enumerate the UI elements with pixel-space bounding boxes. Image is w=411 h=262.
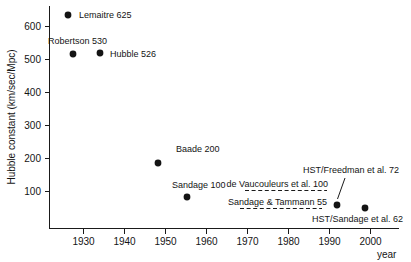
- x-tick-label-1990: 1990: [318, 236, 341, 247]
- y-tick-label-200: 200: [24, 153, 41, 164]
- x-axis: [50, 229, 400, 234]
- label-lemaitre: Lemaitre 625: [79, 10, 132, 20]
- data-point-lemaitre[interactable]: [65, 12, 72, 19]
- y-axis-title: Hubble constant (km/sec/Mpc): [6, 49, 17, 184]
- data-point-robertson[interactable]: [70, 51, 77, 58]
- label-hst-sandage: HST/Sandage et al. 62: [312, 214, 403, 224]
- x-tick-label-1960: 1960: [195, 236, 218, 247]
- label-de-vaucouleurs: de Vaucouleurs et al. 100: [227, 179, 328, 189]
- y-tick-label-500: 500: [24, 54, 41, 65]
- label-baade: Baade 200: [176, 144, 220, 154]
- leader-line-hst-freedman: [338, 178, 346, 199]
- data-point-hst-freedman[interactable]: [334, 202, 341, 209]
- y-tick-label-600: 600: [24, 21, 41, 32]
- label-hubble: Hubble 526: [110, 49, 156, 59]
- x-tick-label-2000: 2000: [359, 236, 382, 247]
- data-point-hubble[interactable]: [97, 50, 104, 57]
- data-point-hst-sandage[interactable]: [362, 205, 369, 212]
- label-hst-freedman: HST/Freedman et al. 72: [303, 165, 399, 175]
- data-point-sandage[interactable]: [184, 194, 191, 201]
- label-robertson: Robertson 530: [48, 36, 107, 46]
- x-tick-label-1970: 1970: [236, 236, 259, 247]
- data-point-baade[interactable]: [155, 160, 162, 167]
- x-axis-title: year: [377, 249, 397, 260]
- y-tick-label-300: 300: [24, 120, 41, 131]
- hubble-constant-scatter-chart: 600 500 400 300 200 100 1930 1940 1950 1…: [0, 0, 411, 262]
- y-tick-label-100: 100: [24, 186, 41, 197]
- x-tick-label-1940: 1940: [113, 236, 136, 247]
- x-tick-label-1980: 1980: [277, 236, 300, 247]
- y-tick-label-400: 400: [24, 87, 41, 98]
- label-sandage-tammann: Sandage & Tammann 55: [228, 197, 327, 207]
- x-tick-label-1950: 1950: [154, 236, 177, 247]
- x-tick-label-1930: 1930: [72, 236, 95, 247]
- label-sandage: Sandage 100: [172, 180, 226, 190]
